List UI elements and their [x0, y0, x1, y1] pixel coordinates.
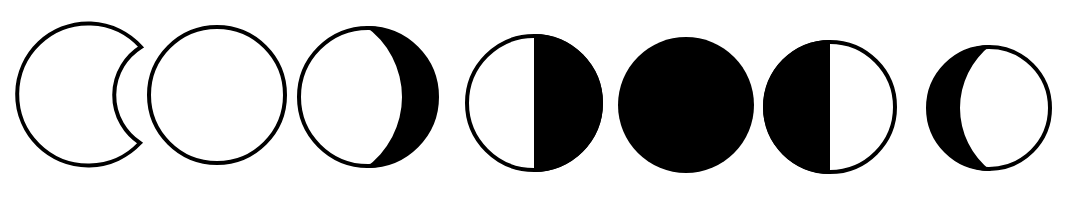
moon-phases-diagram: [0, 0, 1065, 197]
moon-phase-half-right-dark-icon: [467, 34, 603, 172]
moon-phase-crescent-left-dark-icon: [928, 45, 1050, 171]
moon-phase-empty-circle-icon: [149, 27, 285, 163]
moon-phases-canvas: [0, 0, 1065, 197]
moon-phase-crescent-outline-icon: [17, 23, 141, 165]
moon-phase-half-left-dark-icon: [763, 40, 895, 174]
moon-phase-full-dark-icon: [618, 37, 754, 173]
moon-phase-gibbous-right-dark-icon: [299, 26, 437, 168]
